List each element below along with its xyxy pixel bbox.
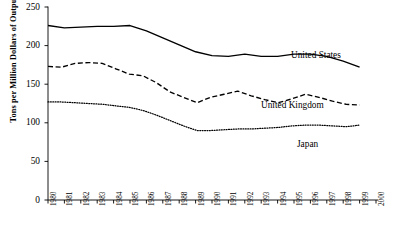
x-tick-label: 2000 bbox=[379, 192, 386, 206]
series-line-united-kingdom bbox=[48, 63, 360, 105]
x-tick-label: 1989 bbox=[199, 192, 206, 206]
x-tick-label: 1998 bbox=[346, 192, 353, 206]
x-tick-label: 1981 bbox=[67, 192, 74, 206]
series-line-united-states bbox=[48, 26, 360, 68]
y-tick-label: 50 bbox=[14, 157, 40, 166]
x-tick-label: 1983 bbox=[100, 192, 107, 206]
x-tick-label: 1987 bbox=[166, 192, 173, 206]
series-label-japan: Japan bbox=[297, 139, 318, 149]
x-tick-label: 1980 bbox=[51, 192, 58, 206]
x-tick-label: 1993 bbox=[264, 192, 271, 206]
y-tick-label: 250 bbox=[14, 3, 40, 12]
y-tick-label: 200 bbox=[14, 41, 40, 50]
x-tick-label: 1990 bbox=[215, 192, 222, 206]
y-tick-label: 100 bbox=[14, 118, 40, 127]
x-tick-label: 1982 bbox=[84, 192, 91, 206]
y-tick-label: 150 bbox=[14, 80, 40, 89]
x-tick-label: 1997 bbox=[330, 192, 337, 206]
x-tick-label: 1986 bbox=[149, 192, 156, 206]
chart-container: Tons per Million Dollars of Output 05010… bbox=[0, 0, 393, 230]
x-tick-label: 1984 bbox=[117, 192, 124, 206]
series-label-united-kingdom: United Kingdom bbox=[261, 100, 324, 110]
x-tick-label: 1991 bbox=[231, 192, 238, 206]
x-tick-label: 1985 bbox=[133, 192, 140, 206]
x-tick-label: 1992 bbox=[248, 192, 255, 206]
x-tick-label: 1994 bbox=[281, 192, 288, 206]
x-tick-label: 1988 bbox=[182, 192, 189, 206]
x-tick-label: 1995 bbox=[297, 192, 304, 206]
series-label-united-states: United States bbox=[291, 50, 341, 60]
y-tick-label: 0 bbox=[14, 196, 40, 205]
x-tick-label: 1999 bbox=[363, 192, 370, 206]
x-tick-label: 1996 bbox=[313, 192, 320, 206]
